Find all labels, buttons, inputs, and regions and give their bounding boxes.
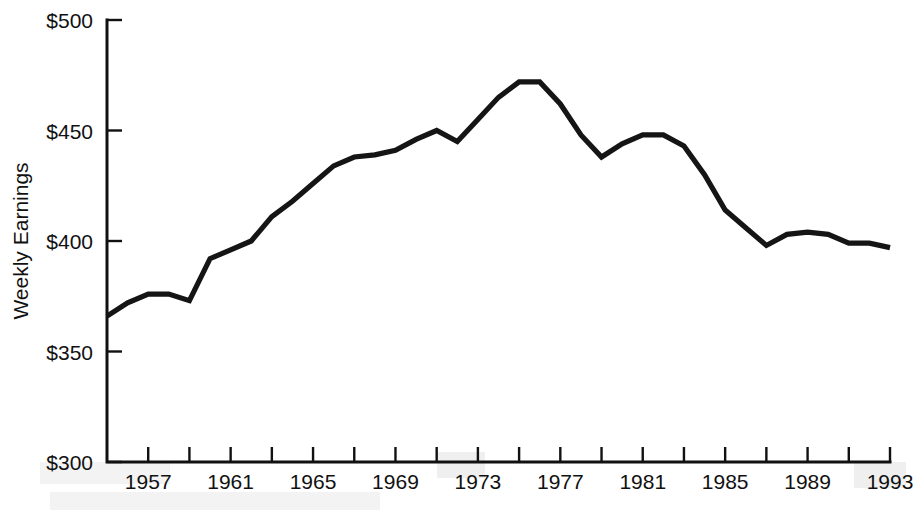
y-axis-tick-labels: $300$350$400$450$500 [46,9,93,474]
x-tick-label: 1993 [867,470,914,493]
y-axis-ticks [107,20,122,462]
x-axis-tick-labels: 1957196119651969197319771981198519891993 [125,470,914,493]
x-axis-ticks [148,447,890,462]
y-tick-label: $500 [46,9,93,32]
line-chart: $300$350$400$450$500 1957196119651969197… [0,0,915,519]
x-tick-label: 1977 [537,470,584,493]
x-tick-label: 1985 [702,470,749,493]
x-tick-label: 1965 [290,470,337,493]
x-tick-label: 1961 [207,470,254,493]
y-tick-label: $300 [46,451,93,474]
y-tick-label: $400 [46,230,93,253]
y-tick-label: $350 [46,341,93,364]
x-tick-label: 1973 [455,470,502,493]
chart-figure: $300$350$400$450$500 1957196119651969197… [0,0,915,519]
x-tick-label: 1969 [372,470,419,493]
x-tick-label: 1957 [125,470,172,493]
data-series-line [107,82,890,316]
x-tick-label: 1981 [619,470,666,493]
x-tick-label: 1989 [784,470,831,493]
y-axis-title: Weekly Earnings [9,162,32,319]
y-tick-label: $450 [46,120,93,143]
scan-artifact [50,492,380,510]
